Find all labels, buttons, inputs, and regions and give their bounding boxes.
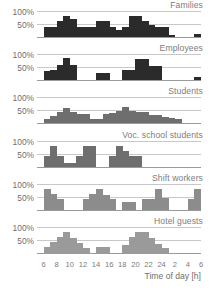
plot-area xyxy=(37,54,201,81)
plot-area xyxy=(37,184,201,211)
x-tick-label: 20 xyxy=(131,260,139,269)
panel-students: Students 100% 50% xyxy=(0,86,212,129)
panel-families: Families 100% 50% xyxy=(0,0,212,43)
x-tick-label: 6 xyxy=(199,260,203,269)
x-tick-label: 16 xyxy=(105,260,113,269)
bar xyxy=(129,202,136,209)
bar xyxy=(155,66,162,81)
bar xyxy=(168,35,175,37)
y-tick-label-100: 100% xyxy=(13,223,34,233)
bar xyxy=(57,199,64,209)
time-of-day-histogram-figure: Families 100% 50% Employees 100% 50% Stu… xyxy=(0,0,212,297)
x-tick-label: 24 xyxy=(157,260,165,269)
x-tick-label: 6 xyxy=(41,260,45,269)
y-tick-label-100: 100% xyxy=(13,180,34,190)
bar xyxy=(103,247,110,253)
x-axis: 681012141618202224246 Time of day [h] xyxy=(0,259,212,273)
x-tick-label: 12 xyxy=(79,260,87,269)
bar xyxy=(83,248,90,253)
bar xyxy=(175,119,182,123)
y-tick-label-100: 100% xyxy=(13,137,34,147)
y-tick-label-50: 50% xyxy=(17,63,34,73)
panel-title: Employees xyxy=(160,43,203,53)
x-tick-label: 4 xyxy=(186,260,190,269)
x-tick-label: 18 xyxy=(118,260,126,269)
panel-voc-school-students: Voc. school students 100% 50% xyxy=(0,130,212,173)
axis-baseline xyxy=(37,167,201,168)
y-axis-labels: 100% 50% xyxy=(0,97,35,124)
plot-area xyxy=(37,141,201,168)
panel-hotel-guests: Hotel guests 100% 50% xyxy=(0,216,212,259)
panel-shift-workers: Shift workers 100% 50% xyxy=(0,173,212,216)
panel-title: Shift workers xyxy=(152,173,203,183)
bar xyxy=(89,146,96,167)
y-tick-label-100: 100% xyxy=(13,7,34,17)
axis-baseline xyxy=(37,80,201,81)
bar xyxy=(109,199,116,209)
y-tick-label-50: 50% xyxy=(17,20,34,30)
y-tick-label-100: 100% xyxy=(13,50,34,60)
bar xyxy=(194,189,201,210)
bar xyxy=(135,156,142,166)
bar xyxy=(103,73,110,80)
bar-series xyxy=(37,141,201,167)
plot-area xyxy=(37,97,201,124)
bar-series xyxy=(37,54,201,80)
panel-employees: Employees 100% 50% xyxy=(0,43,212,86)
bar xyxy=(194,77,201,80)
panel-title: Hotel guests xyxy=(154,216,203,226)
bar xyxy=(162,248,169,253)
bar-series xyxy=(37,184,201,210)
y-axis-labels: 100% 50% xyxy=(0,227,35,254)
x-tick-label: 22 xyxy=(144,260,152,269)
y-tick-label-50: 50% xyxy=(17,236,34,246)
plot-area xyxy=(37,11,201,38)
axis-baseline xyxy=(37,210,201,211)
y-tick-label-100: 100% xyxy=(13,93,34,103)
axis-baseline xyxy=(37,253,201,254)
y-axis-labels: 100% 50% xyxy=(0,54,35,81)
x-tick-label: 10 xyxy=(66,260,74,269)
bar-series xyxy=(37,97,201,123)
x-tick-label: 8 xyxy=(55,260,59,269)
y-axis-labels: 100% 50% xyxy=(0,11,35,38)
x-axis-title: Time of day [h] xyxy=(144,271,201,281)
panel-title: Voc. school students xyxy=(122,130,203,140)
x-tick-label: 14 xyxy=(92,260,100,269)
axis-baseline xyxy=(37,123,201,124)
y-tick-label-50: 50% xyxy=(17,150,34,160)
bar xyxy=(70,65,77,81)
bar xyxy=(162,198,169,209)
bar-series xyxy=(37,11,201,37)
plot-area xyxy=(37,227,201,254)
y-axis-labels: 100% 50% xyxy=(0,184,35,211)
x-tick-label: 2 xyxy=(173,260,177,269)
bar xyxy=(194,34,201,37)
y-axis-labels: 100% 50% xyxy=(0,141,35,168)
bar-series xyxy=(37,227,201,253)
y-tick-label-50: 50% xyxy=(17,193,34,203)
panel-title: Students xyxy=(168,86,203,96)
panel-title: Families xyxy=(170,0,203,10)
axis-baseline xyxy=(37,37,201,38)
y-tick-label-50: 50% xyxy=(17,106,34,116)
